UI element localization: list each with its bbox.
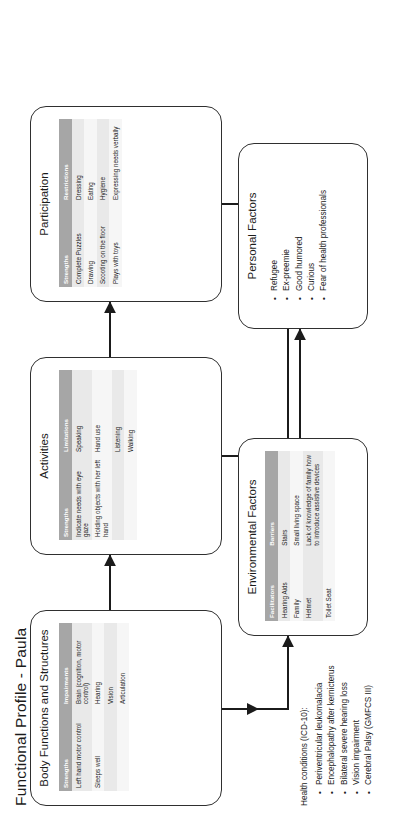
- table-row: Family Small living space: [290, 451, 302, 621]
- cell: [104, 707, 116, 791]
- cell: Walking: [124, 370, 136, 455]
- cell: Articulation: [117, 623, 129, 707]
- table-header-row: Facilitators Barriers: [265, 451, 278, 621]
- list-item: Good humored: [294, 141, 306, 291]
- list-item: Ex-preemie: [281, 141, 293, 291]
- col-header-limitations: Limitations: [59, 370, 72, 455]
- table-header-row: Strengths Restrictions: [59, 119, 72, 287]
- cell: Vision: [104, 623, 116, 707]
- table-row: Indicate needs with eye gaze Speaking: [72, 370, 92, 540]
- cell: Speaking: [72, 370, 92, 455]
- table-row: Hearing Aids Stairs: [278, 451, 290, 621]
- table-row: Left hand motor control Brain (cognition…: [72, 623, 92, 791]
- list-item: Periventricular leukomalacia: [314, 605, 326, 785]
- col-header-strengths: Strengths: [59, 707, 72, 791]
- cell: Expressing needs verbally: [109, 119, 121, 203]
- diagram-canvas: Functional Profile - Paula Body Function…: [0, 0, 413, 824]
- table-row: Articulation: [117, 623, 129, 791]
- table-row: Toilet Seat: [323, 451, 335, 621]
- table-header-row: Strengths Limitations: [59, 370, 72, 540]
- col-header-restrictions: Restrictions: [59, 119, 72, 203]
- cell: Holding objects with her left hand: [92, 455, 112, 540]
- cell: Hearing: [92, 623, 104, 707]
- table-activities: Strengths Limitations Indicate needs wit…: [59, 370, 137, 540]
- cell: Plays with toys: [109, 203, 121, 287]
- cell: Hygiene: [97, 119, 109, 203]
- list-item: Curious: [306, 141, 318, 291]
- table-row: Sleeps well Hearing: [92, 623, 104, 791]
- table-row: Walking: [124, 370, 136, 540]
- cell: [117, 707, 129, 791]
- box-title-body-functions: Body Functions and Structures: [38, 611, 50, 805]
- list-item: Fear of health professionals: [318, 141, 330, 291]
- cell: Dressing: [72, 119, 84, 203]
- table-participation: Strengths Restrictions Complete Puzzles …: [59, 119, 122, 287]
- box-activities[interactable]: Activities Strengths Limitations Indicat…: [30, 357, 222, 555]
- cell: [112, 455, 124, 540]
- health-conditions-title: Health conditions (ICD-10):: [300, 707, 309, 806]
- cell: Complete Puzzles: [72, 203, 84, 287]
- cell: [124, 455, 136, 540]
- list-health-conditions: Periventricular leukomalacia Encephalopa…: [314, 605, 375, 796]
- list-item: Refugee: [269, 141, 281, 291]
- table-row: Drawing Eating: [84, 119, 96, 287]
- cell: Drawing: [84, 203, 96, 287]
- cell: Eating: [84, 119, 96, 203]
- cell: Stairs: [278, 451, 290, 549]
- box-personal-factors[interactable]: Personal Factors Refugee Ex-preemie Good…: [238, 143, 368, 329]
- table-body-functions: Strengths Impairments Left hand motor co…: [59, 623, 129, 791]
- cell: [323, 451, 335, 549]
- cell: Sleeps well: [92, 707, 104, 791]
- col-header-strengths: Strengths: [59, 203, 72, 287]
- box-participation[interactable]: Participation Strengths Restrictions Com…: [30, 106, 222, 302]
- list-personal-factors: Refugee Ex-preemie Good humored Curious …: [269, 141, 330, 302]
- table-environmental-factors: Facilitators Barriers Hearing Aids Stair…: [265, 451, 335, 621]
- table-row: Helmet Lack of knowledge of family how t…: [303, 451, 323, 621]
- cell: Listening: [112, 370, 124, 455]
- list-item: Encephalopathy after kernicterus: [326, 605, 338, 785]
- page-title: Functional Profile - Paula: [12, 628, 30, 806]
- box-title-environmental-factors: Environmental Factors: [246, 439, 258, 635]
- col-header-strengths: Strengths: [59, 455, 72, 540]
- list-item: Bilateral severe hearing loss: [339, 605, 351, 785]
- table-row: Vision: [104, 623, 116, 791]
- list-item: Vision impairment: [351, 605, 363, 785]
- table-row: Holding objects with her left hand Hand …: [92, 370, 112, 540]
- list-item: Cerebral Palsy (GMFCS III): [363, 605, 375, 785]
- table-row: Scooting on the floor Hygiene: [97, 119, 109, 287]
- table-row: Listening: [112, 370, 124, 540]
- cell: Left hand motor control: [72, 707, 92, 791]
- col-header-facilitators: Facilitators: [265, 549, 278, 621]
- box-title-activities: Activities: [38, 358, 50, 554]
- cell: Brain (cognition, motor control): [72, 623, 92, 707]
- cell: Family: [290, 549, 302, 621]
- box-title-participation: Participation: [38, 107, 50, 301]
- cell: Hearing Aids: [278, 549, 290, 621]
- col-header-impairments: Impairments: [59, 623, 72, 707]
- table-header-row: Strengths Impairments: [59, 623, 72, 791]
- cell: Hand use: [92, 370, 112, 455]
- box-title-personal-factors: Personal Factors: [246, 144, 258, 328]
- box-body-functions-and-structures[interactable]: Body Functions and Structures Strengths …: [30, 610, 222, 806]
- col-header-barriers: Barriers: [265, 451, 278, 549]
- cell: Lack of knowledge of family how to intro…: [303, 451, 323, 549]
- table-row: Plays with toys Expressing needs verball…: [109, 119, 121, 287]
- cell: Small living space: [290, 451, 302, 549]
- table-row: Complete Puzzles Dressing: [72, 119, 84, 287]
- cell: Scooting on the floor: [97, 203, 109, 287]
- cell: Indicate needs with eye gaze: [72, 455, 92, 540]
